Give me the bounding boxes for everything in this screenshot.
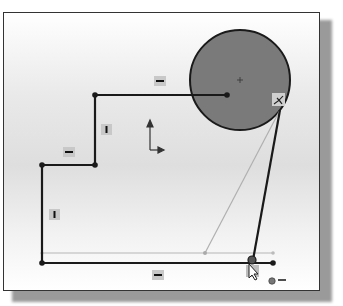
- endpoint[interactable]: [270, 260, 276, 266]
- vertical-relation-icon[interactable]: [49, 209, 60, 220]
- endpoint[interactable]: [39, 260, 45, 266]
- endpoint[interactable]: [92, 92, 98, 98]
- horizontal-relation-icon[interactable]: [152, 270, 164, 280]
- preview-endpoint: [271, 251, 275, 255]
- horizontal-relation-icon[interactable]: [63, 147, 75, 157]
- coincident-relation-icon: [269, 278, 286, 284]
- endpoint[interactable]: [224, 92, 230, 98]
- horizontal-relation-icon[interactable]: [154, 76, 166, 86]
- line-tool-cursor: [246, 264, 259, 280]
- preview-point: [203, 251, 207, 255]
- origin-icon: [147, 120, 164, 153]
- preview-diagonal-line: [205, 110, 280, 253]
- vertical-relation-icon[interactable]: [101, 124, 112, 135]
- endpoint[interactable]: [39, 162, 45, 168]
- tangent-line[interactable]: [253, 110, 280, 260]
- active-point[interactable]: [248, 256, 256, 264]
- sketch-canvas[interactable]: [0, 0, 343, 306]
- endpoint[interactable]: [92, 162, 98, 168]
- tangent-relation-icon[interactable]: [272, 93, 285, 106]
